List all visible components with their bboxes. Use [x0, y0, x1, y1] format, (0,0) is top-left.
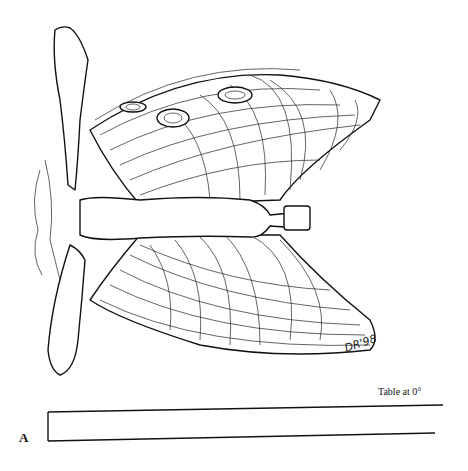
table-angle-label: Table at 0° [378, 386, 421, 397]
lower-ribs [90, 235, 375, 354]
clavicle-lower [48, 245, 85, 375]
table-platform [48, 405, 443, 441]
panel-label: A [19, 430, 28, 446]
clavicle-upper [54, 27, 88, 190]
rib-cage-illustration [0, 0, 468, 471]
sternum [80, 198, 300, 240]
